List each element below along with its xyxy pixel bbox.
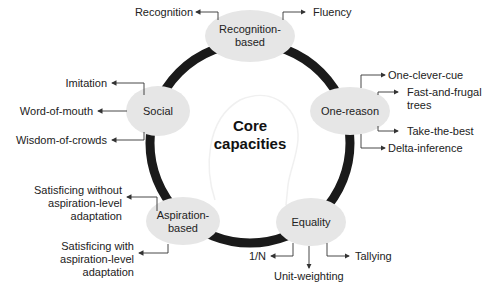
heuristic-tallying: Tallying [355, 250, 392, 263]
heuristic-delta-inference: Delta-inference [388, 142, 463, 155]
heuristic-fluency: Fluency [313, 6, 352, 19]
heuristic-imitation: Imitation [65, 77, 107, 90]
heuristic-word-of-mouth: Word-of-mouth [20, 105, 93, 118]
heuristic-satisficing-with-adaptation: Satisficing with aspiration-level adapta… [60, 240, 134, 279]
node-equality: Equality [276, 216, 346, 229]
heuristic-fast-and-frugal-trees: Fast-and-frugal trees [407, 86, 482, 112]
heuristic-satisficing-without-adaptation: Satisficing without aspiration-level ada… [34, 184, 122, 223]
heuristic-unit-weighting: Unit-weighting [274, 270, 344, 283]
heuristic-wisdom-of-crowds: Wisdom-of-crowds [16, 134, 107, 147]
core-capacities-title: Core capacities [200, 117, 300, 153]
heuristic-take-the-best: Take-the-best [407, 125, 474, 138]
heuristic-recognition: Recognition [135, 6, 193, 19]
node-aspiration-based: Aspiration- based [143, 209, 223, 235]
heuristic-one-clever-cue: One-clever-cue [388, 69, 463, 82]
node-recognition-based: Recognition- based [200, 23, 300, 49]
node-one-reason: One-reason [310, 105, 390, 118]
node-social: Social [126, 105, 190, 118]
heuristic-1-over-n: 1/N [249, 250, 266, 263]
